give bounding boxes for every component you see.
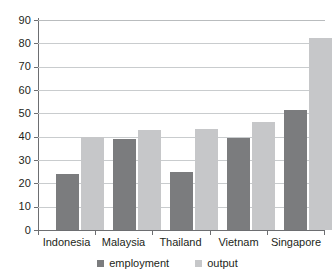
x-axis-baseline xyxy=(38,230,325,231)
chart-legend: employment output xyxy=(0,258,335,269)
x-tick-mark-2 xyxy=(152,230,153,235)
legend-label-output: output xyxy=(207,258,238,269)
bar-group-vietnam xyxy=(227,20,279,230)
bar-group-singapore xyxy=(284,20,335,230)
bar-group-indonesia xyxy=(56,20,108,230)
x-tick-mark-5 xyxy=(324,230,325,235)
x-label-malaysia: Malaysia xyxy=(95,236,152,249)
x-label-indonesia: Indonesia xyxy=(38,236,95,249)
bar-malaysia-employment xyxy=(113,139,136,230)
y-tick-label-90: 90 xyxy=(19,15,31,26)
y-tick-label-0: 0 xyxy=(25,225,31,236)
bar-singapore-output xyxy=(309,38,332,231)
y-axis-labels: 90 80 70 60 50 40 30 20 10 0 xyxy=(0,0,31,279)
x-label-vietnam: Vietnam xyxy=(210,236,267,249)
bar-group-thailand xyxy=(170,20,222,230)
x-tick-mark-1 xyxy=(95,230,96,235)
y-tick-label-40: 40 xyxy=(19,131,31,142)
bar-group-malaysia xyxy=(113,20,165,230)
y-tick-label-70: 70 xyxy=(19,61,31,72)
legend-entry-output: output xyxy=(195,258,238,269)
legend-swatch-icon-output xyxy=(195,260,202,267)
legend-swatch-icon-employment xyxy=(97,260,104,267)
x-tick-mark-3 xyxy=(210,230,211,235)
y-tick-label-80: 80 xyxy=(19,38,31,49)
legend-entry-employment: employment xyxy=(97,258,169,269)
bar-indonesia-output xyxy=(81,137,104,230)
legend-label-employment: employment xyxy=(109,258,169,269)
bar-chart: 90 80 70 60 50 40 30 20 10 0 xyxy=(0,0,335,279)
x-label-singapore: Singapore xyxy=(267,236,325,249)
x-tick-mark-0 xyxy=(38,230,39,235)
y-tick-label-20: 20 xyxy=(19,178,31,189)
y-tick-label-60: 60 xyxy=(19,85,31,96)
bar-thailand-output xyxy=(195,129,218,230)
plot-area xyxy=(38,20,325,230)
y-tick-label-50: 50 xyxy=(19,108,31,119)
bar-vietnam-employment xyxy=(227,138,250,230)
x-tick-mark-4 xyxy=(267,230,268,235)
bar-malaysia-output xyxy=(138,130,161,230)
x-axis-labels: Indonesia Malaysia Thailand Vietnam Sing… xyxy=(38,236,325,252)
y-tick-label-10: 10 xyxy=(19,201,31,212)
bar-thailand-employment xyxy=(170,172,193,230)
bar-indonesia-employment xyxy=(56,174,79,230)
y-tick-label-30: 30 xyxy=(19,155,31,166)
bar-singapore-employment xyxy=(284,110,307,230)
x-label-thailand: Thailand xyxy=(152,236,209,249)
bar-vietnam-output xyxy=(252,122,275,231)
